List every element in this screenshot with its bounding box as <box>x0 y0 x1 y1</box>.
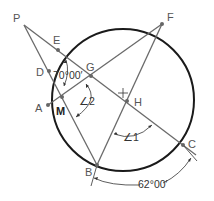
angle-label-2: ∠2 <box>79 95 95 107</box>
arrowhead-icon <box>148 125 152 128</box>
label-F: F <box>167 11 174 23</box>
label-C: C <box>188 138 196 150</box>
label-M: M <box>56 105 65 117</box>
dimension-arc-left <box>94 178 140 185</box>
arc-label-62: 62°00′ <box>138 178 168 190</box>
label-D: D <box>36 66 44 78</box>
label-B: B <box>85 166 92 178</box>
label-E: E <box>53 34 60 46</box>
chord-AF <box>48 24 162 105</box>
geometry-diagram: P E D G A M F H B C 70°00′ ∠2 ∠1 62°00′ <box>0 0 214 201</box>
arrowhead-icon <box>76 113 80 117</box>
angle-label-1: ∠1 <box>123 131 139 143</box>
label-P: P <box>13 12 20 24</box>
angle-label-70: 70°00′ <box>53 69 83 81</box>
label-G: G <box>86 61 95 73</box>
label-H: H <box>134 96 142 108</box>
chord-FB <box>97 24 162 165</box>
label-A: A <box>35 102 43 114</box>
